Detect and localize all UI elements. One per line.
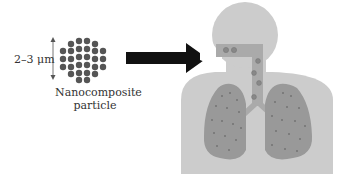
particle-caption-line2: particle bbox=[55, 99, 135, 112]
size-scale-label: 2–3 μm bbox=[14, 53, 55, 66]
diagram-canvas bbox=[0, 0, 345, 174]
particle-caption-line1: Nanocomposite bbox=[55, 86, 135, 99]
nanocomposite-particle-cluster bbox=[60, 38, 106, 83]
inhalation-arrow-icon bbox=[126, 43, 207, 73]
particle-caption: Nanocomposite particle bbox=[55, 86, 135, 112]
